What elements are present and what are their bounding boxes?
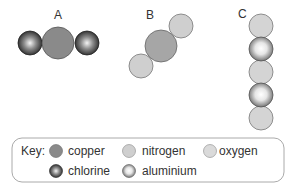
key-box: Key: copper nitrogen oxygen chlorine alu… (12, 138, 284, 182)
nitrogen-atom (129, 54, 153, 78)
oxygen-swatch-icon (204, 145, 217, 158)
nitrogen-swatch-icon (123, 145, 136, 158)
oxygen-atom (249, 14, 273, 38)
chlorine-swatch-icon (50, 165, 63, 178)
molecule-diagram: A B C Key: copper nitrogen oxygen chlori… (0, 0, 292, 192)
chlorine-atom (18, 31, 42, 55)
molecule-a: A (18, 8, 99, 59)
molecule-b: B (129, 8, 193, 78)
key-label-nitrogen: nitrogen (142, 144, 185, 158)
chlorine-atom (75, 31, 99, 55)
copper-atom (42, 27, 74, 59)
key-label-chlorine: chlorine (68, 164, 110, 178)
key-label-copper: copper (68, 144, 105, 158)
molecule-c: C (238, 7, 273, 130)
aluminium-atom (249, 83, 273, 107)
key-label-aluminium: aluminium (142, 164, 197, 178)
oxygen-atom (249, 60, 273, 84)
copper-atom (145, 30, 177, 62)
key-title: Key: (21, 144, 45, 158)
aluminium-swatch-icon (123, 165, 136, 178)
copper-swatch-icon (50, 145, 63, 158)
molecule-b-label: B (146, 8, 154, 22)
molecule-a-label: A (54, 8, 62, 22)
key-label-oxygen: oxygen (219, 144, 258, 158)
nitrogen-atom (169, 14, 193, 38)
aluminium-atom (249, 37, 273, 61)
molecule-c-label: C (238, 7, 247, 21)
oxygen-atom (249, 106, 273, 130)
